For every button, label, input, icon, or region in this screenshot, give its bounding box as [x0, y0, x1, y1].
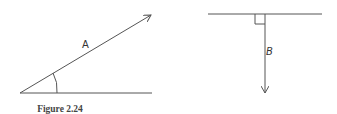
vector-b-label: B — [266, 46, 273, 57]
left-diagram: A Figure 2.24 — [20, 15, 152, 114]
figure-caption: Figure 2.24 — [37, 104, 83, 114]
angle-arc — [53, 73, 57, 93]
vector-a-arrow — [20, 15, 151, 93]
vector-a-label: A — [82, 39, 89, 50]
figure-2-24: A Figure 2.24 B — [0, 0, 337, 114]
right-angle-marker — [255, 14, 265, 24]
right-diagram: B — [208, 14, 322, 93]
